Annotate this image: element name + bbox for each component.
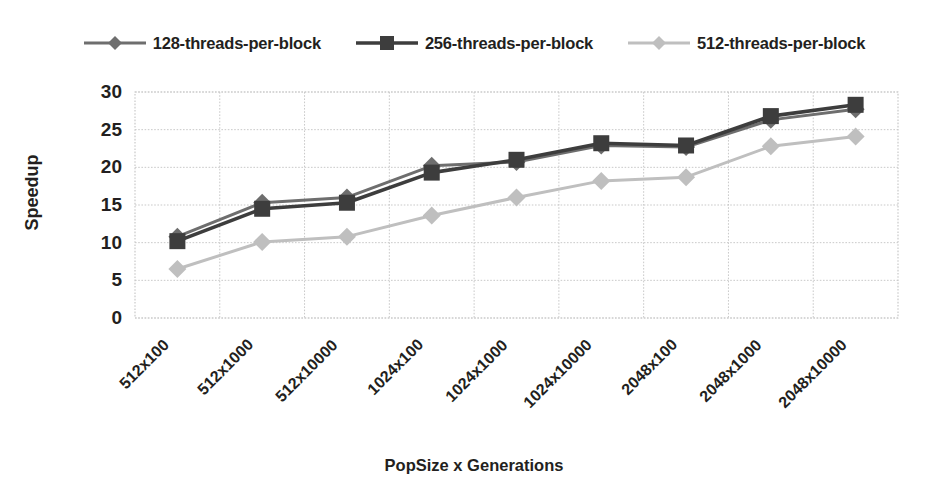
plot-area-wrapper: 051015202530 Speedup 512x100512x1000512x…: [0, 0, 948, 492]
y-tick-label: 25: [76, 120, 122, 139]
data-point: [678, 137, 694, 153]
data-point: [848, 97, 864, 113]
data-point: [253, 233, 271, 251]
x-axis-title: PopSize x Generations: [0, 456, 948, 475]
data-point: [339, 195, 355, 211]
data-point: [169, 233, 185, 249]
data-point: [168, 260, 186, 278]
data-point: [423, 207, 441, 225]
plot-svg: [0, 0, 948, 492]
data-point: [593, 135, 609, 151]
data-point: [254, 201, 270, 217]
y-tick-label: 30: [76, 82, 122, 101]
y-tick-label: 10: [76, 233, 122, 252]
series-128-threads-per-block: [168, 100, 864, 245]
y-tick-label: 5: [76, 270, 122, 289]
y-axis-title: Speedup: [22, 145, 43, 241]
data-point: [592, 172, 610, 190]
data-point: [763, 108, 779, 124]
series-256-threads-per-block: [169, 97, 863, 249]
y-tick-label: 20: [76, 157, 122, 176]
data-point: [509, 152, 525, 168]
y-tick-label: 15: [76, 195, 122, 214]
y-tick-label: 0: [76, 308, 122, 327]
data-point: [508, 188, 526, 206]
series-layer: [168, 97, 864, 278]
speedup-line-chart: 128-threads-per-block 256-threads-per-bl…: [0, 0, 948, 492]
data-point: [424, 165, 440, 181]
data-point: [677, 168, 695, 186]
y-axis-ticks: 051015202530: [76, 0, 122, 492]
data-point: [762, 137, 780, 155]
